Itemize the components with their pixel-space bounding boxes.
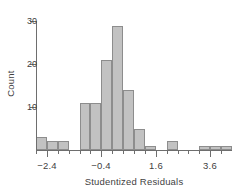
x-axis-minor-tick-mark	[145, 151, 146, 154]
histogram-bar	[134, 129, 145, 150]
y-axis-tick-label-wrap: 30	[0, 17, 37, 26]
x-axis-minor-tick-mark	[112, 151, 113, 154]
histogram-bar	[167, 141, 178, 150]
histogram-bar	[58, 141, 69, 150]
x-axis-minor-tick-mark	[58, 151, 59, 154]
histogram-bar	[36, 137, 47, 150]
histogram-bar	[80, 103, 91, 150]
y-axis-line	[36, 21, 37, 151]
x-axis-minor-tick-mark	[134, 151, 135, 154]
x-axis-tick-mark	[210, 151, 211, 157]
x-axis-minor-tick-mark	[167, 151, 168, 154]
x-axis-minor-tick-mark	[90, 151, 91, 154]
x-axis-minor-tick-mark	[199, 151, 200, 154]
x-axis-minor-tick-mark	[36, 151, 37, 154]
y-axis-title: Count	[5, 56, 16, 112]
y-axis-tick-label: 30	[15, 17, 37, 26]
x-axis-minor-tick-mark	[80, 151, 81, 154]
y-axis-tick-label: 20	[15, 60, 37, 69]
histogram-bar	[90, 103, 101, 150]
x-axis-minor-tick-mark	[69, 151, 70, 154]
x-axis-tick-label: −2.4	[27, 160, 67, 171]
x-axis-minor-tick-mark	[221, 151, 222, 154]
x-axis-tick-mark	[101, 151, 102, 157]
y-axis-tick-label: 10	[15, 103, 37, 112]
x-axis-minor-tick-mark	[188, 151, 189, 154]
x-axis-tick-mark	[156, 151, 157, 157]
x-axis-minor-tick-mark	[178, 151, 179, 154]
x-axis-tick-mark	[47, 151, 48, 157]
histogram-bar	[112, 26, 123, 150]
histogram-bar	[123, 90, 134, 150]
x-axis-title: Studentized Residuals	[36, 176, 232, 187]
histogram-bar	[101, 60, 112, 150]
x-axis-tick-label: −0.4	[81, 160, 121, 171]
x-axis-tick-label: 1.6	[136, 160, 176, 171]
plot-area: 102030 −2.4−0.41.63.6 Count Studentized …	[0, 0, 244, 193]
x-axis-minor-tick-mark	[123, 151, 124, 154]
histogram-bar	[47, 141, 58, 150]
x-axis-tick-label: 3.6	[190, 160, 230, 171]
histogram-figure: 102030 −2.4−0.41.63.6 Count Studentized …	[0, 0, 244, 193]
